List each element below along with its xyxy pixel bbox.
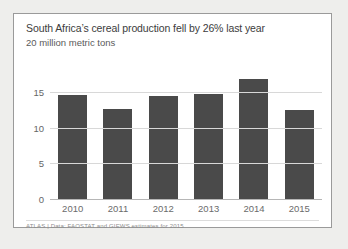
gridline: 15 [50,92,322,93]
chart-card: South Africa’s cereal production fell by… [13,13,332,228]
gridline: 10 [50,128,322,129]
bar [103,109,132,200]
bar [194,94,223,200]
x-axis-tick-label: 2012 [141,203,186,214]
y-axis-tick-label: 10 [33,122,44,133]
x-axis-tick-label: 2013 [186,203,231,214]
source-note: ATLAS | Data: FAOSTAT and GIEWS estimate… [26,223,184,229]
x-axis-tick-label: 2011 [95,203,140,214]
x-axis-tick-label: 2014 [231,203,276,214]
title-block: South Africa’s cereal production fell by… [26,21,321,49]
y-axis-tick-label: 5 [39,158,44,169]
chart-title: South Africa’s cereal production fell by… [26,21,321,35]
bar [239,79,268,200]
plot-area: 051015 [50,73,322,200]
gridline: 5 [50,163,322,164]
y-axis-tick-label: 0 [39,194,44,205]
x-axis-labels: 201020112012201320142015 [50,203,322,214]
screenshot-root: South Africa’s cereal production fell by… [0,0,348,249]
bar [285,110,314,200]
bar [149,96,178,200]
chart-subtitle: 20 million metric tons [26,36,321,49]
footer-divider [26,220,319,221]
x-axis-tick-label: 2015 [277,203,322,214]
bar [58,95,87,200]
x-axis-tick-label: 2010 [50,203,95,214]
x-axis-line: 0 [50,199,322,200]
y-axis-tick-label: 15 [33,86,44,97]
